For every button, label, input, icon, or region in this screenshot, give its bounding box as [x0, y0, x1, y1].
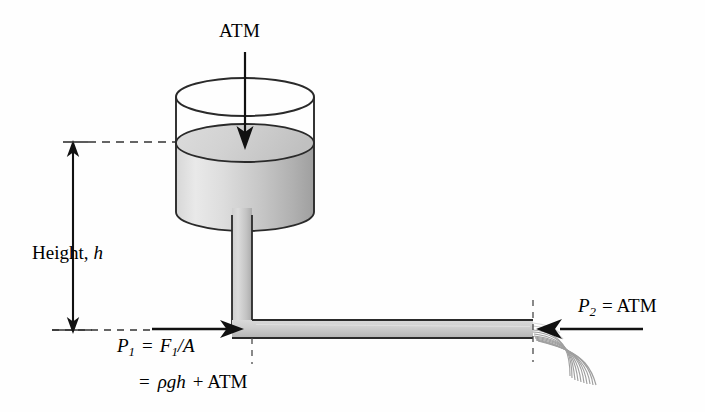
- force-symbol: F: [160, 335, 172, 356]
- vertical-pipe: [232, 208, 252, 331]
- height-variable: h: [93, 242, 103, 263]
- p1-equation-line2: =ρgh+ ATM: [139, 372, 247, 391]
- height-label-text: Height,: [32, 242, 88, 263]
- atm-label: ATM: [219, 21, 260, 40]
- p2-subscript: 2: [590, 304, 596, 319]
- p1-symbol: P: [117, 335, 129, 356]
- p1-equation-line1: P1=F1/A: [117, 336, 195, 359]
- diagram-canvas: [0, 0, 705, 412]
- plus-atm: + ATM: [193, 371, 248, 392]
- gravity-symbol: g: [167, 371, 177, 392]
- rho-symbol: ρ: [158, 371, 167, 392]
- p2-equation: P2= ATM: [578, 296, 657, 319]
- pressure-diagram-figure: ATM Height,h P2= ATM P1=F1/A =ρgh+ ATM: [0, 0, 705, 412]
- height-symbol-eq: h: [176, 371, 186, 392]
- divided-by-area: /A: [178, 335, 195, 356]
- p1-equals-sign: =: [142, 335, 153, 356]
- p1-line2-equals-sign: =: [139, 371, 150, 392]
- horizontal-pipe: [232, 320, 533, 338]
- water-spray: [533, 323, 596, 385]
- p1-subscript: 1: [129, 344, 135, 359]
- height-label: Height,h: [32, 243, 103, 262]
- p2-symbol: P: [578, 295, 590, 316]
- p2-equals-atm: = ATM: [602, 295, 657, 316]
- height-double-arrow: [63, 140, 88, 334]
